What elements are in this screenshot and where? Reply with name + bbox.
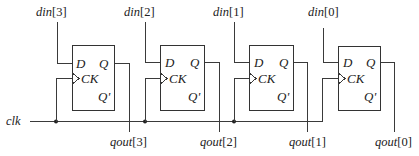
pin-q: Q — [99, 56, 109, 71]
pin-d: D — [342, 55, 353, 70]
pin-ck: CK — [258, 71, 277, 86]
din3-label: din[3] — [36, 5, 67, 19]
qout0-label: qout[0] — [375, 135, 412, 149]
flip-flop-1: din[1] D Q CK Q' qout[1] — [213, 5, 326, 149]
clk-branch-1 — [234, 79, 249, 122]
clock-net: clk — [6, 114, 322, 128]
pin-qbar: Q' — [277, 89, 289, 104]
pin-qbar: Q' — [188, 89, 200, 104]
din1-label: din[1] — [213, 5, 244, 19]
clk-label: clk — [6, 114, 21, 128]
din1-wire — [235, 22, 250, 63]
qout0-wire — [381, 63, 395, 133]
din0-wire — [324, 28, 339, 63]
pin-qbar: Q' — [98, 89, 110, 104]
pin-d: D — [253, 55, 264, 70]
din3-wire — [57, 22, 72, 64]
pin-qbar: Q' — [364, 89, 376, 104]
qout3-label: qout[3] — [110, 135, 147, 149]
clk-branch-0 — [322, 79, 338, 122]
pin-ck: CK — [81, 71, 100, 86]
din0-label: din[0] — [308, 5, 339, 19]
din2-label: din[2] — [124, 5, 155, 19]
clk-branch-2 — [145, 79, 160, 122]
flip-flop-0: din[0] D Q CK Q' qout[0] — [308, 5, 412, 149]
flip-flop-2: din[2] D Q CK Q' qout[2] — [124, 5, 237, 149]
pin-d: D — [75, 56, 86, 71]
qout2-label: qout[2] — [200, 135, 237, 149]
flip-flop-3: din[3] D Q CK Q' qout[3] — [36, 5, 147, 149]
clk-branch-3 — [56, 79, 72, 122]
pin-ck: CK — [169, 71, 188, 86]
pin-d: D — [164, 55, 175, 70]
pin-q: Q — [190, 55, 200, 70]
din2-wire — [146, 22, 161, 63]
circuit-diagram: clk din[3] D Q CK Q' qout[3] din[2] D Q … — [0, 0, 419, 156]
qout1-label: qout[1] — [289, 135, 326, 149]
pin-q: Q — [366, 55, 376, 70]
pin-ck: CK — [347, 71, 366, 86]
pin-q: Q — [279, 55, 289, 70]
